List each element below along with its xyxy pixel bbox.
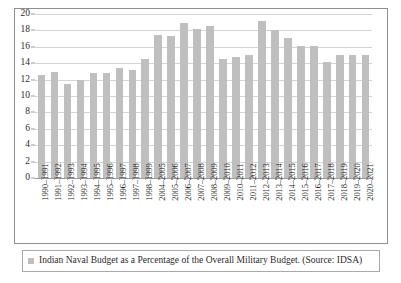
bar: [90, 73, 98, 178]
bar: [180, 23, 188, 178]
bar: [336, 55, 344, 178]
bar-slot: [281, 14, 294, 178]
bar-slot: [255, 14, 268, 178]
x-axis-labels: 1990–19911991–19921992–19931993–19941994…: [35, 180, 372, 242]
x-label-slot: 2020–2021: [359, 180, 372, 242]
x-label-slot: 1995–1996: [100, 180, 113, 242]
x-label-slot: 2009–2010: [217, 180, 230, 242]
bar-slot: [359, 14, 372, 178]
legend-swatch-icon: [28, 258, 34, 264]
y-tick-label-8: 8: [25, 108, 30, 118]
bar: [232, 57, 240, 178]
bar: [284, 38, 292, 178]
bar: [245, 55, 253, 178]
bar-slot: [230, 14, 243, 178]
x-label-slot: 1998–1999: [139, 180, 152, 242]
bar: [297, 46, 305, 178]
y-tick-label-20: 20: [21, 9, 31, 19]
x-label-slot: 1991–1992: [48, 180, 61, 242]
bar: [362, 55, 370, 178]
bar-slot: [268, 14, 281, 178]
bar: [206, 26, 214, 178]
x-label-slot: 1993–1994: [74, 180, 87, 242]
bar-slot: [204, 14, 217, 178]
bar-slot: [217, 14, 230, 178]
x-label-slot: 2007–2008: [191, 180, 204, 242]
bar-slot: [126, 14, 139, 178]
x-label-slot: 2008–2009: [204, 180, 217, 242]
chart-legend: Indian Naval Budget as a Percentage of t…: [22, 250, 380, 272]
bar: [129, 70, 137, 178]
y-tick-label-2: 2: [25, 157, 30, 167]
x-label-slot: 2015–2016: [294, 180, 307, 242]
bar-slot: [178, 14, 191, 178]
bar-slot: [113, 14, 126, 178]
bar: [167, 36, 175, 178]
bar: [271, 30, 279, 178]
x-label-slot: 2010–2011: [230, 180, 243, 242]
y-tick-label-0: 0: [25, 173, 30, 183]
bar: [193, 29, 201, 178]
bar: [310, 46, 318, 178]
bar-slot: [139, 14, 152, 178]
bar-slot: [346, 14, 359, 178]
y-tick-label-4: 4: [25, 140, 30, 150]
x-label-slot: 2019–2020: [346, 180, 359, 242]
bar: [103, 73, 111, 178]
y-tick-label-12: 12: [21, 75, 31, 85]
bar-slot: [48, 14, 61, 178]
x-label-slot: 1994–1995: [87, 180, 100, 242]
x-label-slot: 2004–2005: [152, 180, 165, 242]
x-label-slot: 1992–1993: [61, 180, 74, 242]
bar: [51, 72, 59, 178]
x-label-slot: 2018–2019: [333, 180, 346, 242]
bar-slot: [191, 14, 204, 178]
bar: [141, 59, 149, 178]
bar: [116, 68, 124, 178]
x-label-slot: 2006–2007: [178, 180, 191, 242]
bar-slot: [320, 14, 333, 178]
y-tick-label-10: 10: [21, 91, 31, 101]
bar-slot: [61, 14, 74, 178]
x-label-slot: 2005–2006: [165, 180, 178, 242]
y-tick-label-14: 14: [21, 58, 31, 68]
x-tick-label: 2020–2021: [366, 163, 375, 200]
x-label-slot: 2017–2018: [320, 180, 333, 242]
bar-slot: [74, 14, 87, 178]
x-label-slot: 2016–2017: [307, 180, 320, 242]
bar-slot: [165, 14, 178, 178]
y-tick-label-6: 6: [25, 124, 30, 134]
bar-slot: [100, 14, 113, 178]
chart-figure: 02468101214161820 1990–19911991–19921992…: [0, 0, 401, 283]
bar: [349, 55, 357, 178]
bar: [258, 21, 266, 178]
x-label-slot: 2013–2014: [268, 180, 281, 242]
y-tick-label-16: 16: [21, 42, 31, 52]
bar-series: [35, 14, 372, 178]
plot-area: 02468101214161820: [35, 14, 372, 178]
x-label-slot: 1997–1998: [126, 180, 139, 242]
bar: [219, 59, 227, 178]
bar-slot: [307, 14, 320, 178]
x-label-slot: 1990–1991: [35, 180, 48, 242]
legend-label: Indian Naval Budget as a Percentage of t…: [39, 256, 362, 266]
bar-slot: [35, 14, 48, 178]
bar: [154, 35, 162, 178]
bar-slot: [87, 14, 100, 178]
bar-slot: [333, 14, 346, 178]
bar-slot: [152, 14, 165, 178]
y-tick-label-18: 18: [21, 26, 31, 36]
bar-slot: [243, 14, 256, 178]
x-label-slot: 1996–1997: [113, 180, 126, 242]
bar-slot: [294, 14, 307, 178]
bar: [323, 62, 331, 178]
x-label-slot: 2012–2013: [255, 180, 268, 242]
x-label-slot: 2014–2015: [281, 180, 294, 242]
x-label-slot: 2011–2012: [243, 180, 256, 242]
